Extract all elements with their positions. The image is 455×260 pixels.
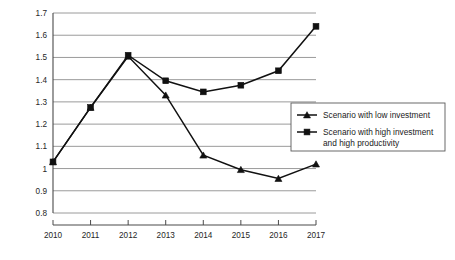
data-point-marker-square xyxy=(238,82,244,88)
data-point-marker-square xyxy=(163,78,169,84)
y-axis-tick-label: 1.3 xyxy=(36,98,48,107)
y-axis-tick-label: 1.5 xyxy=(36,53,48,62)
data-point-marker-square xyxy=(313,23,319,29)
y-axis-tick-label: 1.4 xyxy=(36,76,48,85)
x-axis-tick-label: 2013 xyxy=(157,231,176,240)
x-axis-tick-label: 2010 xyxy=(44,231,63,240)
y-axis-tick-label: 1.6 xyxy=(36,31,48,40)
x-axis-tick-label: 2012 xyxy=(119,231,138,240)
legend-label: Scenario with high investment xyxy=(323,127,434,137)
line-chart: 0.80.911.11.21.31.41.51.61.7 20102011201… xyxy=(0,0,455,260)
chart-canvas: 0.80.911.11.21.31.41.51.61.7 20102011201… xyxy=(0,0,455,260)
data-point-marker-square xyxy=(276,68,282,74)
y-axis-tick-label: 1 xyxy=(42,165,47,174)
legend-label: Scenario with low investment xyxy=(323,110,431,120)
data-point-marker-square xyxy=(200,89,206,95)
x-axis-tick-label: 2016 xyxy=(269,231,288,240)
data-point-marker-square xyxy=(304,129,310,135)
y-axis-tick-label: 0.8 xyxy=(36,209,48,218)
legend-label-line2: and high productivity xyxy=(323,138,400,148)
data-point-marker-square xyxy=(88,105,94,111)
data-point-marker-square xyxy=(125,52,131,58)
y-axis-tick-label: 1.2 xyxy=(36,120,48,129)
x-axis-tick-label: 2015 xyxy=(232,231,251,240)
x-axis-tick-label: 2017 xyxy=(307,231,326,240)
data-point-marker-square xyxy=(50,159,56,165)
y-axis-tick-label: 0.9 xyxy=(36,187,48,196)
y-axis-tick-label: 1.7 xyxy=(36,9,48,18)
x-axis-tick-label: 2011 xyxy=(82,231,100,240)
x-axis-tick-label: 2014 xyxy=(194,231,213,240)
chart-legend: Scenario with low investmentScenario wit… xyxy=(291,103,445,151)
y-axis-tick-label: 1.1 xyxy=(36,142,48,151)
